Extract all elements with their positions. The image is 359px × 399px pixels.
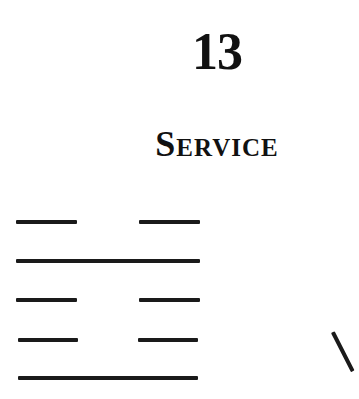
line-segment [16,259,200,263]
line-segment [139,220,200,224]
line-segment [139,298,200,302]
line-segment [18,338,78,342]
hexagram-line-broken [16,298,200,302]
hexagram-line-broken [16,338,200,342]
line-segment [16,220,77,224]
hexagram-figure [16,0,200,399]
hexagram-line-broken [16,220,200,224]
line-segment [18,376,198,380]
line-segment [16,298,77,302]
hexagram-line-solid [16,376,200,380]
line-segment [138,338,198,342]
hexagram-line-solid [16,259,200,263]
partial-glyph-stroke [331,331,355,372]
